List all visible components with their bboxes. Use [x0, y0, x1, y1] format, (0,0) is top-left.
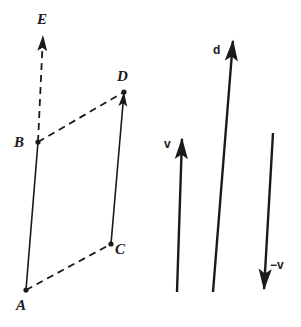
point-label-d: D — [117, 69, 128, 84]
vector-label-v: v — [164, 138, 171, 150]
point-label-c: C — [115, 242, 125, 257]
vector-d-shaft — [213, 41, 233, 292]
segment-cd — [111, 93, 124, 244]
point-label-e: E — [37, 12, 47, 27]
vertex-dot-c — [108, 241, 113, 246]
point-label-a: A — [16, 298, 26, 313]
vector-v-shaft — [177, 139, 182, 292]
segment-ab — [26, 142, 38, 290]
vertex-dot-d — [121, 89, 126, 94]
segment-ac — [26, 244, 111, 290]
vector-diagram-figure: A B C D E v d −v — [0, 0, 301, 327]
vector-label-d: d — [213, 44, 220, 56]
vector-label-negative-v: −v — [270, 259, 284, 271]
vertex-dot-a — [23, 287, 28, 292]
point-label-b: B — [14, 135, 24, 150]
vertex-dot-b — [35, 139, 40, 144]
segment-bd — [38, 92, 124, 142]
figure-canvas — [0, 0, 301, 327]
segment-be — [38, 36, 43, 142]
